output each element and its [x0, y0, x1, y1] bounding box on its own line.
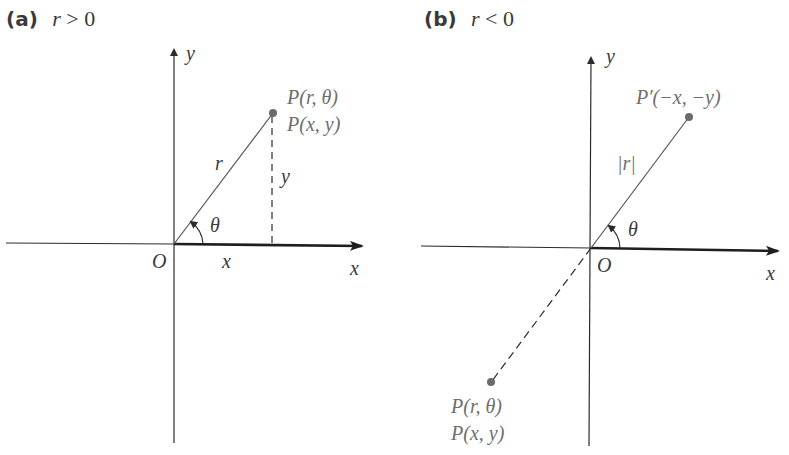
panel-a-point	[269, 109, 277, 117]
panel-b-point-label-polar: P(r, θ)	[450, 395, 502, 418]
panel-a-point-label-cartesian: P(x, y)	[286, 113, 341, 136]
panel-b-diagram: y x O θ |r| P′(−x, −y) P(r, θ) P(x, y)	[421, 45, 778, 446]
panel-a-radius-label: r	[215, 152, 223, 174]
panel-a-angle-arc	[191, 222, 203, 244]
panel-b-origin-label: O	[597, 254, 611, 276]
panel-b-radius-line	[591, 117, 689, 248]
panel-a-y-segment-label: y	[279, 165, 290, 188]
panel-a-x-axis-label: x	[349, 257, 359, 279]
panel-b-y-axis	[589, 58, 591, 446]
panel-b-reflected-point-label: P′(−x, −y)	[635, 86, 721, 109]
panel-a-x-axis-positive	[174, 244, 362, 246]
panel-b-y-axis-label: y	[604, 45, 615, 68]
panel-b-angle-label: θ	[628, 218, 638, 240]
panel-b-point-label-cartesian: P(x, y)	[450, 422, 505, 445]
panel-b-reflected-point	[685, 113, 693, 121]
panel-b-x-axis-label: x	[765, 262, 775, 284]
panel-b-x-axis-negative	[421, 246, 591, 248]
panel-a-x-axis-negative	[6, 243, 174, 244]
panel-a-y-axis-label: y	[184, 42, 195, 65]
panel-b-radius-label: |r|	[617, 152, 636, 175]
panel-a-angle-label: θ	[210, 214, 220, 236]
panel-a-point-label-polar: P(r, θ)	[286, 86, 338, 109]
panel-a-diagram: y x O x y r θ P(r, θ) P(x, y)	[6, 42, 362, 443]
panel-a-origin-label: O	[152, 250, 166, 272]
panel-a-radius-line	[174, 113, 273, 244]
panel-b-point	[487, 378, 495, 386]
panel-b-dashed-line	[492, 248, 591, 381]
panel-b-angle-arc	[609, 226, 620, 248]
polar-coordinates-diagram: y x O x y r θ P(r, θ) P(x, y) y x O θ |r…	[0, 0, 789, 455]
panel-b-x-axis-positive	[591, 248, 778, 251]
panel-a-x-segment-label: x	[221, 250, 231, 272]
